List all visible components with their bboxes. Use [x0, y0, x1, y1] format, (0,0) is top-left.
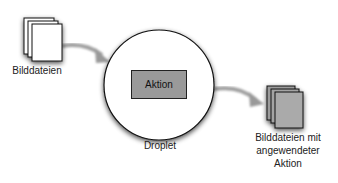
droplet-label: Droplet — [130, 139, 190, 152]
output-label-line-3: Aktion — [240, 157, 336, 170]
action-label: Aktion — [145, 79, 173, 90]
output-label: Bilddateien mit angewendeter Aktion — [240, 131, 336, 170]
input-file-stack-icon — [24, 18, 62, 61]
arrow-input-to-droplet — [62, 45, 110, 63]
arrow-droplet-to-output — [214, 88, 264, 107]
output-label-line-2: angewendeter — [240, 144, 336, 157]
input-label: Bilddateien — [4, 64, 70, 77]
output-label-line-1: Bilddateien mit — [240, 131, 336, 144]
output-file-stack-icon — [267, 86, 303, 128]
diagram-canvas: Aktion Bilddateien Droplet Bilddateien m… — [0, 0, 338, 183]
action-box: Aktion — [131, 70, 187, 99]
